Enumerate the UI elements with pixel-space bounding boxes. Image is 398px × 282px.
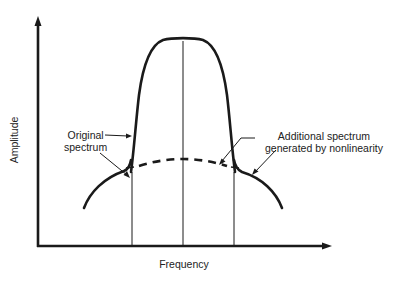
- right-regrowth-skirt: [234, 160, 282, 208]
- left-skirt-tick: [126, 167, 134, 168]
- original-spectrum-label-line1: Original: [64, 129, 107, 141]
- additional-spectrum-label: Additional spectrum generated by nonline…: [265, 130, 383, 154]
- original-spectrum-label-line2: spectrum: [64, 141, 107, 153]
- y-axis: [35, 16, 42, 247]
- original-spectrum-label: Original spectrum: [64, 129, 107, 153]
- additional-spectrum-label-line2: generated by nonlinearity: [265, 142, 383, 154]
- left-regrowth-skirt: [84, 160, 131, 208]
- additional-spectrum-label-line1: Additional spectrum: [265, 130, 383, 142]
- right-skirt-tick: [231, 167, 239, 168]
- vertical-markers: [132, 41, 234, 246]
- x-axis-label: Frequency: [159, 258, 209, 270]
- y-axis-label: Amplitude: [8, 117, 20, 164]
- x-axis: [37, 243, 332, 250]
